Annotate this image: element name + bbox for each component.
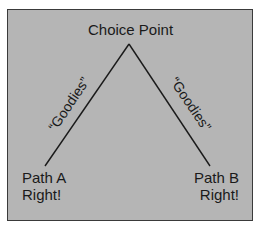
path-a-label: Path A — [22, 169, 66, 186]
path-b-right-label: Right! — [192, 186, 239, 203]
path-b-endpoint: Path B Right! — [192, 169, 239, 203]
path-a-right-label: Right! — [22, 186, 66, 203]
choice-point-label: Choice Point — [88, 22, 173, 38]
path-b-label: Path B — [192, 169, 239, 186]
path-a-endpoint: Path A Right! — [22, 169, 66, 203]
